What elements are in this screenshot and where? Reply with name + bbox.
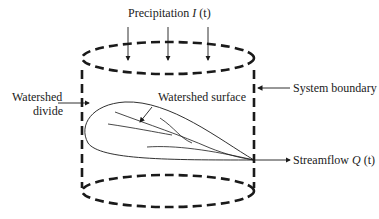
- watershed-divide-label-line2: divide: [33, 104, 63, 118]
- watershed-divide-label-line1: Watershed: [12, 90, 62, 104]
- stream-channel: [115, 112, 254, 160]
- watershed-diagram: Precipitation I (t) Watershed divide Wat…: [0, 0, 379, 219]
- bottom-boundary-ellipse: [82, 175, 254, 207]
- surface-pointer-icon: [140, 107, 152, 122]
- streamflow-label: Streamflow Q (t): [293, 153, 375, 167]
- stream-network: [108, 112, 254, 160]
- system-boundary-label: System boundary: [293, 81, 377, 95]
- stream-channel: [147, 147, 254, 160]
- watershed-surface-label: Watershed surface: [158, 90, 246, 104]
- precipitation-label: Precipitation I (t): [128, 6, 211, 20]
- watershed-outline: [85, 102, 254, 160]
